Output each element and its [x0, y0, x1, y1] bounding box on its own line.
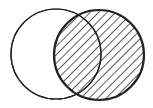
venn-diagram — [0, 0, 153, 108]
